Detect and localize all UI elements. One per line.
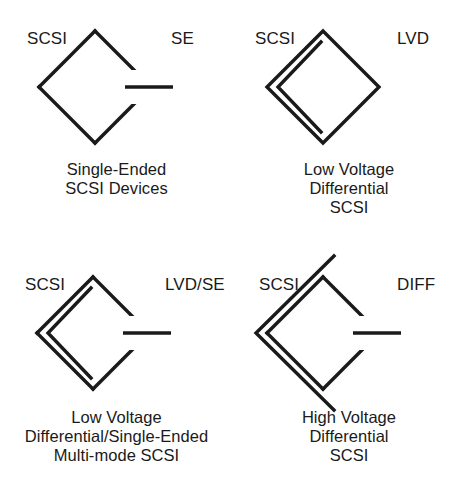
caption-line-2: Differential xyxy=(304,179,394,198)
left-port-label: SCSI xyxy=(27,29,67,48)
caption-line-3: SCSI xyxy=(304,198,394,217)
right-port-label: LVD/SE xyxy=(165,275,225,294)
symbol-cell-low-voltage-differential: SCSI LVD Low Voltage Differential SCSI xyxy=(233,0,465,248)
symbol-caption-single-ended: Single-Ended SCSI Devices xyxy=(65,160,167,198)
diamond-glyph-low-voltage-differential-single-ended: SCSI LVD/SE xyxy=(17,254,227,404)
caption-line-1: Low Voltage xyxy=(25,408,208,427)
right-port-label: LVD xyxy=(397,29,429,48)
symbol-graphic-high-voltage-differential: SCSI DIFF xyxy=(247,254,457,404)
left-port-label: SCSI xyxy=(25,275,65,294)
diamond-glyph-low-voltage-differential: SCSI LVD xyxy=(247,8,457,158)
caption-line-3: SCSI xyxy=(302,446,396,465)
caption-line-2: Differential xyxy=(302,427,396,446)
symbol-cell-high-voltage-differential: SCSI DIFF High Voltage Differential SCSI xyxy=(233,248,465,496)
caption-line-2: SCSI Devices xyxy=(65,179,167,198)
left-port-label: SCSI xyxy=(255,29,295,48)
symbol-graphic-low-voltage-differential-single-ended: SCSI LVD/SE xyxy=(17,254,227,404)
diamond-glyph-high-voltage-differential: SCSI DIFF xyxy=(247,254,457,404)
diamond-left-lower-edge xyxy=(37,333,93,389)
scsi-symbol-chart: SCSI SE Single-Ended SCSI Devices xyxy=(0,0,465,496)
symbol-caption-low-voltage-differential: Low Voltage Differential SCSI xyxy=(304,160,394,217)
diamond-left-lower-edge xyxy=(39,87,95,143)
caption-line-1: Low Voltage xyxy=(304,160,394,179)
caption-line-1: Single-Ended xyxy=(65,160,167,179)
symbol-cell-low-voltage-differential-single-ended: SCSI LVD/SE Low Voltage Differential/Sin… xyxy=(0,248,233,496)
caption-line-3: Multi-mode SCSI xyxy=(25,446,208,465)
symbol-cell-single-ended: SCSI SE Single-Ended SCSI Devices xyxy=(0,0,233,248)
symbol-graphic-low-voltage-differential: SCSI LVD xyxy=(247,8,457,158)
caption-line-2: Differential/Single-Ended xyxy=(25,427,208,446)
symbol-caption-high-voltage-differential: High Voltage Differential SCSI xyxy=(302,408,396,465)
symbol-grid: SCSI SE Single-Ended SCSI Devices xyxy=(0,0,465,496)
caption-line-1: High Voltage xyxy=(302,408,396,427)
right-port-label: DIFF xyxy=(397,275,435,294)
diamond-glyph-single-ended: SCSI SE xyxy=(19,8,229,158)
symbol-graphic-single-ended: SCSI SE xyxy=(19,8,229,158)
left-port-label: SCSI xyxy=(259,275,299,294)
symbol-caption-low-voltage-differential-single-ended: Low Voltage Differential/Single-Ended Mu… xyxy=(25,408,208,465)
right-port-label: SE xyxy=(171,29,194,48)
diamond-left-lower-edge xyxy=(267,333,323,389)
